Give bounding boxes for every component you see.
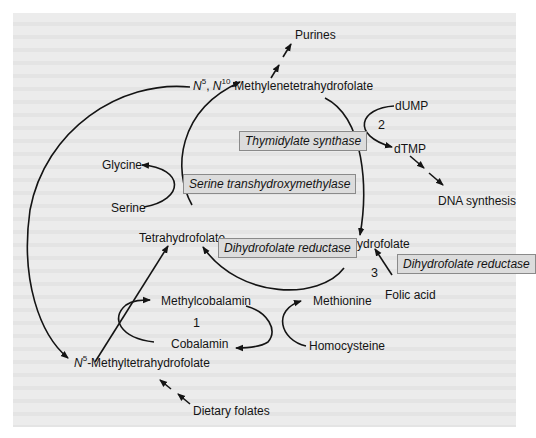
node-methylene-thf: N5, N10-Methylenetetrahydrofolate [193, 79, 373, 93]
step-number-1: 1 [193, 316, 200, 330]
node-folic-acid: Folic acid [385, 288, 436, 302]
enzyme-dihydrofolate-reductase-outer: Dihydrofolate reductase [397, 254, 536, 274]
enzyme-thymidylate-synthase: Thymidylate synthase [239, 131, 367, 151]
node-glycine: Glycine [102, 158, 142, 172]
superscript-5: 5 [202, 77, 206, 86]
node-methyl-thf: N5-Methyltetrahydrofolate [74, 356, 210, 370]
methyl-thf-name: -Methyltetrahydrofolate [87, 356, 210, 370]
n-italic: N [193, 79, 202, 93]
superscript-5: 5 [83, 354, 87, 363]
node-dtmp: dTMP [394, 142, 426, 156]
step-number-2: 2 [378, 118, 385, 132]
comma: , [206, 79, 213, 93]
node-methionine: Methionine [313, 294, 372, 308]
enzyme-serine-transhydroxymethylase: Serine transhydroxymethylase [183, 174, 356, 194]
superscript-10: 10 [221, 77, 230, 86]
enzyme-dihydrofolate-reductase-inner: Dihydrofolate reductase [218, 238, 357, 258]
methylene-thf-name: -Methylenetetrahydrofolate [230, 79, 373, 93]
node-dietary-folates: Dietary folates [193, 404, 270, 418]
node-purines: Purines [295, 28, 336, 42]
node-serine: Serine [111, 201, 146, 215]
node-dna-synthesis: DNA synthesis [438, 194, 516, 208]
node-cobalamin: Cobalamin [171, 337, 228, 351]
node-homocysteine: Homocysteine [309, 339, 385, 353]
n-italic: N [74, 356, 83, 370]
step-number-3: 3 [371, 266, 378, 280]
node-methylcobalamin: Methylcobalamin [161, 294, 251, 308]
node-dump: dUMP [395, 99, 428, 113]
node-tetrahydrofolate: Tetrahydrofolate [139, 231, 225, 245]
